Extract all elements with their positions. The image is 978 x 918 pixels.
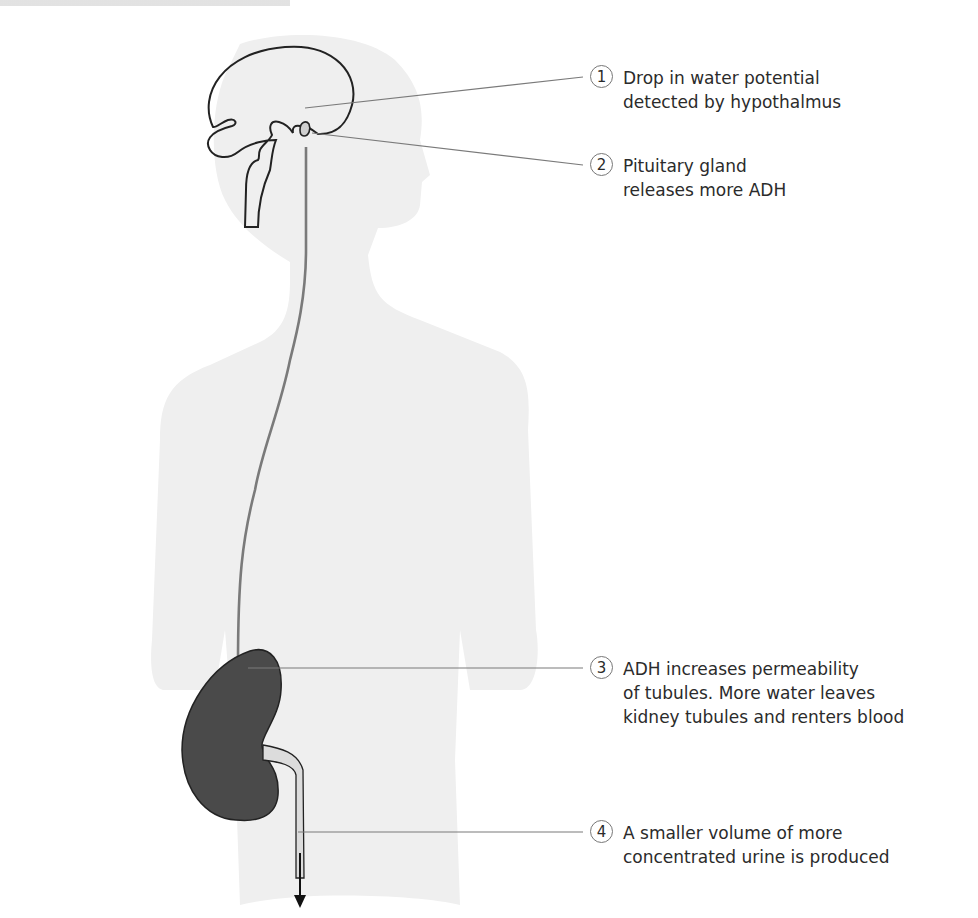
callout-text: Drop in water potential xyxy=(623,66,841,90)
callout-text: Pituitary gland xyxy=(623,154,786,178)
callout-text: ADH increases permeability xyxy=(623,657,904,681)
adh-regulation-diagram xyxy=(0,0,978,918)
callout-4: 4 A smaller volume of more concentrated … xyxy=(623,821,890,869)
pituitary-gland xyxy=(300,122,310,136)
callout-1: 1 Drop in water potential detected by hy… xyxy=(623,66,841,114)
callout-text: concentrated urine is produced xyxy=(623,845,890,869)
callout-3: 3 ADH increases permeability of tubules.… xyxy=(623,657,904,729)
callout-text: of tubules. More water leaves xyxy=(623,681,904,705)
step-number-badge: 2 xyxy=(590,153,613,176)
step-number-badge: 3 xyxy=(590,656,613,679)
step-number-badge: 4 xyxy=(590,820,613,843)
callout-text: A smaller volume of more xyxy=(623,821,890,845)
callout-text: kidney tubules and renters blood xyxy=(623,705,904,729)
callout-text: releases more ADH xyxy=(623,178,786,202)
step-number-badge: 1 xyxy=(590,65,613,88)
urine-flow-arrowhead xyxy=(294,895,306,908)
callout-2: 2 Pituitary gland releases more ADH xyxy=(623,154,786,202)
callout-text: detected by hypothalmus xyxy=(623,90,841,114)
